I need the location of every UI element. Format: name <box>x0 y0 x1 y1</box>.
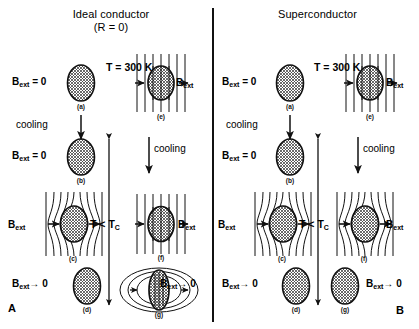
right-f-b-sub: ext <box>393 224 403 231</box>
right-a-b-sub: ext <box>229 81 239 88</box>
right-panel-title: Superconductor <box>250 8 385 21</box>
left-title-line2: (R = 0) <box>46 21 176 34</box>
right-e-field-label: Bext <box>386 77 403 91</box>
figure-root: Ideal conductor (R = 0) Superconductor A… <box>0 0 419 329</box>
right-c-b-sub: ext <box>225 224 235 231</box>
left-temp-low-sub: C <box>115 224 120 231</box>
left-c-b-sub: ext <box>15 224 25 231</box>
left-g-b-rel: → 0 <box>177 278 195 289</box>
right-cooling-label-2: cooling <box>363 143 395 154</box>
left-a-b-rel: = 0 <box>32 76 46 87</box>
right-g-b-rel: → 0 <box>383 278 401 289</box>
left-b-field-label: Bext = 0 <box>12 150 46 164</box>
left-state-a-specimen <box>63 62 99 106</box>
corner-label-a: A <box>8 302 16 314</box>
left-d-b-sub: ext <box>19 283 29 290</box>
right-temp-low-sub: C <box>324 224 329 231</box>
right-a-field-label: Bext = 0 <box>222 76 256 90</box>
left-panel-title: Ideal conductor (R = 0) <box>46 8 176 33</box>
left-a-b-sub: ext <box>19 81 29 88</box>
left-temp-low-text: T < T <box>90 218 115 230</box>
right-state-d-caption: (d) <box>281 306 311 313</box>
left-d-b-rel: → 0 <box>29 278 47 289</box>
left-state-d-caption: (d) <box>72 306 102 313</box>
right-state-b-specimen <box>272 136 308 180</box>
right-state-g-specimen <box>327 265 363 309</box>
right-c-field-label: Bext <box>218 219 235 233</box>
left-f-field-label: Bext <box>178 219 195 233</box>
right-e-b-sub: ext <box>393 82 403 89</box>
right-state-e-caption: (e) <box>355 113 385 120</box>
left-state-c-caption: (c) <box>58 255 88 262</box>
right-state-f-caption: (f) <box>349 255 379 262</box>
left-state-b-caption: (b) <box>66 177 96 184</box>
left-title-line1: Ideal conductor <box>46 8 176 21</box>
right-f-field-label: Bext <box>386 219 403 233</box>
left-state-f-caption: (f) <box>146 254 176 261</box>
left-g-field-label: Bext→ 0 <box>160 278 196 292</box>
left-state-e-caption: (e) <box>146 113 176 120</box>
left-state-d-specimen <box>69 265 105 309</box>
right-b-b-sub: ext <box>229 155 239 162</box>
right-state-g-caption: (g) <box>330 306 360 313</box>
right-g-field-label: Bext→ 0 <box>366 278 402 292</box>
right-state-c-caption: (c) <box>267 255 297 262</box>
right-cooling-label-1: cooling <box>226 119 258 130</box>
left-cooling-label-2: cooling <box>154 143 186 154</box>
left-c-field-label: Bext <box>8 219 25 233</box>
right-g-b-sub: ext <box>373 283 383 290</box>
left-cooling-label-1: cooling <box>16 119 48 130</box>
right-d-b-sub: ext <box>229 283 239 290</box>
right-state-a-caption: (a) <box>275 103 305 110</box>
left-temp-low: T < TC <box>90 218 120 231</box>
left-f-b-sub: ext <box>185 224 195 231</box>
left-e-field-label: Bext <box>176 77 193 91</box>
left-d-field-label: Bext→ 0 <box>12 278 48 292</box>
right-state-a-specimen <box>272 62 308 106</box>
left-a-field-label: Bext = 0 <box>12 76 46 90</box>
left-b-b-sub: ext <box>19 155 29 162</box>
right-d-field-label: Bext→ 0 <box>222 278 258 292</box>
left-b-b-rel: = 0 <box>32 150 46 161</box>
left-e-b-sub: ext <box>183 82 193 89</box>
right-temp-low: T < TC <box>299 218 329 231</box>
right-d-b-rel: → 0 <box>239 278 257 289</box>
corner-label-b: B <box>396 304 404 316</box>
left-state-a-caption: (a) <box>66 103 96 110</box>
right-title-line1: Superconductor <box>250 8 385 21</box>
right-a-b-rel: = 0 <box>242 76 256 87</box>
right-state-d-specimen <box>278 265 314 309</box>
left-g-b-sub: ext <box>167 283 177 290</box>
right-b-b-rel: = 0 <box>242 150 256 161</box>
left-state-g-caption: (g) <box>144 311 174 318</box>
right-temp-low-text: T < T <box>299 218 324 230</box>
right-b-field-label: Bext = 0 <box>222 150 256 164</box>
left-state-b-specimen <box>63 136 99 180</box>
right-state-b-caption: (b) <box>275 177 305 184</box>
panel-divider <box>212 8 214 322</box>
